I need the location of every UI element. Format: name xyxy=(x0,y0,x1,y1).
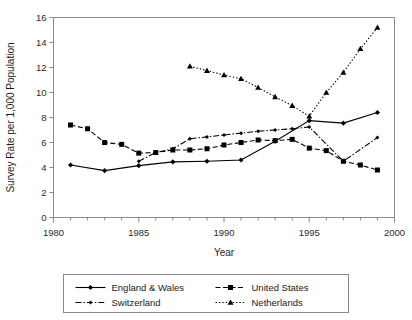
marker-triangle xyxy=(255,84,261,89)
x-tick-label: 1990 xyxy=(213,227,234,238)
marker-square xyxy=(375,168,380,173)
marker-square xyxy=(358,163,363,168)
marker-triangle xyxy=(323,89,329,94)
y-tick-label: 0 xyxy=(41,212,46,223)
y-tick-label: 16 xyxy=(36,12,47,23)
marker-diamond-small xyxy=(256,129,260,133)
series-united-states xyxy=(68,123,380,173)
y-tick-label: 4 xyxy=(41,162,46,173)
marker-diamond xyxy=(68,162,73,167)
y-axis-title: Survey Rate per 1,000 Population xyxy=(5,42,16,192)
marker-diamond-small xyxy=(137,159,141,163)
marker-square xyxy=(119,142,124,147)
marker-diamond xyxy=(136,163,141,168)
marker-square xyxy=(239,140,244,145)
marker-diamond xyxy=(307,118,312,123)
y-tick-label: 10 xyxy=(36,87,47,98)
marker-triangle xyxy=(238,76,244,81)
y-tick-label: 14 xyxy=(36,37,47,48)
marker-square xyxy=(222,143,227,148)
marker-triangle xyxy=(374,24,380,29)
marker-diamond xyxy=(170,159,175,164)
x-tick-label: 1995 xyxy=(299,227,320,238)
marker-diamond-small xyxy=(273,128,277,132)
marker-diamond-small xyxy=(307,125,311,129)
series-line xyxy=(71,113,378,171)
line-chart: 024681012141619801985199019952000YearSur… xyxy=(0,0,412,320)
marker-square xyxy=(324,148,329,153)
marker-diamond xyxy=(375,110,380,115)
marker-square xyxy=(256,138,261,143)
legend-item-united-states[interactable]: United States xyxy=(216,282,309,293)
series-switzerland xyxy=(137,125,380,163)
marker-diamond-small xyxy=(222,133,226,137)
series-england-wales xyxy=(68,110,380,173)
marker-triangle xyxy=(187,63,193,68)
marker-square xyxy=(136,151,141,156)
legend-item-label: United States xyxy=(252,282,309,293)
y-tick-label: 8 xyxy=(41,112,46,123)
series-netherlands xyxy=(187,24,380,118)
marker-diamond xyxy=(102,168,107,173)
marker-diamond xyxy=(88,285,93,290)
y-tick-label: 6 xyxy=(41,137,46,148)
legend-item-label: Netherlands xyxy=(252,297,303,308)
x-tick-label: 1980 xyxy=(43,227,64,238)
x-tick-label: 1985 xyxy=(128,227,149,238)
legend-item-label: England & Wales xyxy=(112,282,185,293)
x-axis-title: Year xyxy=(214,247,235,258)
marker-square xyxy=(290,137,295,142)
legend-box xyxy=(64,275,349,313)
marker-diamond xyxy=(204,159,209,164)
marker-square xyxy=(307,146,312,151)
marker-square xyxy=(102,140,107,145)
marker-square xyxy=(187,148,192,153)
y-tick-label: 12 xyxy=(36,62,47,73)
marker-diamond xyxy=(341,121,346,126)
marker-triangle xyxy=(340,69,346,74)
x-tick-label: 2000 xyxy=(384,227,405,238)
marker-triangle xyxy=(272,94,278,99)
marker-triangle xyxy=(221,72,227,77)
marker-square xyxy=(68,123,73,128)
legend-item-label: Switzerland xyxy=(112,297,161,308)
marker-diamond-small xyxy=(205,135,209,139)
y-tick-label: 2 xyxy=(41,187,46,198)
chart-container: 024681012141619801985199019952000YearSur… xyxy=(0,0,412,320)
marker-triangle xyxy=(289,103,295,108)
marker-square xyxy=(273,138,278,143)
marker-square xyxy=(85,126,90,131)
legend-item-switzerland[interactable]: Switzerland xyxy=(76,297,161,308)
marker-square xyxy=(204,146,209,151)
legend-item-netherlands[interactable]: Netherlands xyxy=(216,297,303,308)
marker-square xyxy=(228,285,233,290)
legend-item-england-wales[interactable]: England & Wales xyxy=(76,282,185,293)
series-line xyxy=(190,28,378,117)
marker-diamond-small xyxy=(239,131,243,135)
marker-diamond-small xyxy=(89,301,93,305)
marker-diamond xyxy=(238,157,243,162)
marker-triangle xyxy=(204,68,210,73)
